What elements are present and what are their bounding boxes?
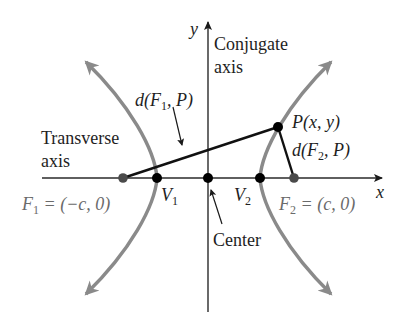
center-point	[203, 173, 213, 183]
transverse-axis-label-line2: axis	[41, 151, 70, 171]
vertex-v1-label: V1	[161, 185, 178, 208]
d-f1-p-label: d(F1, P)	[135, 90, 193, 113]
focus-f2-label: F2 = (c, 0)	[278, 194, 355, 217]
focus-f1-point	[118, 173, 128, 183]
left-branch-upper	[86, 62, 157, 178]
focus-f2-point	[289, 173, 299, 183]
vertex-v2-point	[255, 173, 265, 183]
focus-f1-label: F1 = (−c, 0)	[21, 194, 110, 217]
center-pointer-arrow	[211, 190, 222, 224]
conjugate-axis-label-line1: Conjugate	[214, 34, 288, 54]
vertex-v2-label: V2	[234, 185, 251, 208]
vertex-v1-point	[152, 173, 162, 183]
d-f2-p-label: d(F2, P)	[292, 140, 350, 163]
y-axis-label: y	[188, 19, 198, 39]
center-label: Center	[213, 230, 261, 250]
transverse-axis-label-line1: Transverse	[41, 128, 119, 148]
hyperbola-diagram: y x Conjugate axis Transverse axis d(F1,…	[0, 0, 406, 322]
x-axis-label: x	[375, 182, 384, 202]
conjugate-axis-label-line2: axis	[214, 57, 243, 77]
segment-f1-p	[123, 127, 278, 178]
point-p-label: P(x, y)	[291, 112, 340, 133]
point-p	[273, 122, 283, 132]
d-f1-p-pointer-arrow	[173, 107, 182, 145]
